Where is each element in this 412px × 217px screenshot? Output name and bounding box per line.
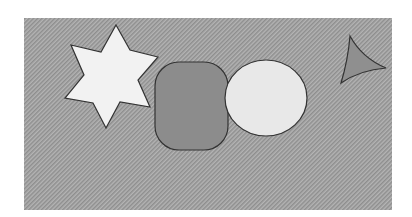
- ellipse-shape: [225, 60, 307, 136]
- rounded-rectangle-shape: [155, 62, 228, 150]
- shapes-canvas: [0, 0, 412, 217]
